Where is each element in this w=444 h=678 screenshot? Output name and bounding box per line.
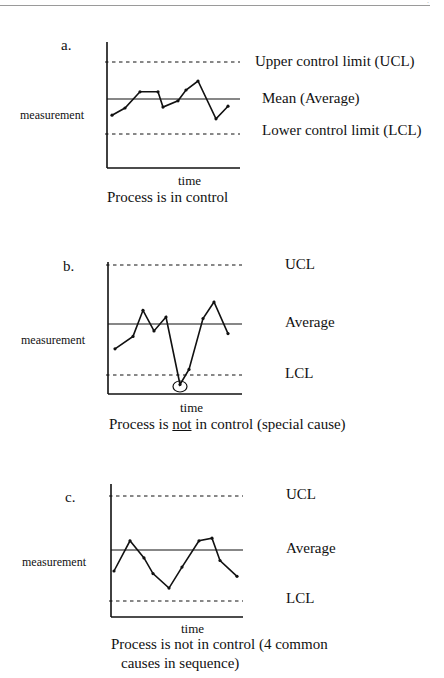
panel-c-ucl-label: UCL (286, 487, 316, 502)
panel-a-data-point (110, 114, 113, 117)
panel-c-lcl-label: LCL (286, 591, 314, 606)
panel-c-data-point (112, 569, 115, 572)
panel-b-caption-pre: Process is (109, 416, 172, 432)
panel-b-caption-post: in control (special cause) (192, 416, 346, 432)
panel-b-data-point (113, 347, 116, 350)
panel-b-caption: Process is not in control (special cause… (109, 417, 346, 432)
panel-c-letter: c. (65, 490, 75, 505)
panel-c-data-point (218, 559, 221, 562)
panel-a-data-point (138, 90, 141, 93)
panel-b-average-label: Average (285, 315, 335, 330)
panel-a-data-point (156, 90, 159, 93)
panel-c-caption-line-2: causes in sequence) (121, 656, 239, 671)
panel-a-data-point (184, 88, 187, 91)
panel-a-data-point (176, 99, 179, 102)
panel-c-data-point (180, 566, 183, 569)
panel-b-data-point (131, 335, 134, 338)
panel-b-data-point (226, 332, 229, 335)
panel-b-data-point (152, 329, 155, 332)
panel-a-data-point (161, 106, 164, 109)
panel-c-data-line (114, 538, 237, 588)
panel-c-data-point (151, 572, 154, 575)
panel-a-ucl-label: Upper control limit (UCL) (255, 54, 415, 69)
panel-b-y-axis-label: measurement (21, 334, 85, 346)
panel-a-caption: Process is in control (107, 190, 228, 205)
panel-b-data-line (115, 302, 228, 385)
panel-c-y-axis-label: measurement (22, 556, 86, 568)
panel-a-lcl-label: Lower control limit (LCL) (262, 123, 422, 138)
panel-a-data-point (196, 79, 199, 82)
panel-a-data-point (226, 105, 229, 108)
panel-b-data-point (164, 316, 167, 319)
panel-b-lcl-label: LCL (285, 366, 313, 381)
panel-b-x-axis-label: time (180, 401, 203, 414)
panel-a-x-axis-label: time (178, 174, 201, 187)
panel-c-data-point (210, 537, 213, 540)
panel-a-y-axis-label: measurement (20, 109, 84, 121)
panel-c-x-axis-label: time (181, 622, 204, 635)
panel-a-letter: a. (61, 38, 71, 53)
panel-b-letter: b. (63, 259, 74, 274)
panel-c-average-label: Average (286, 541, 336, 556)
panel-a-data-point (214, 117, 217, 120)
panel-b-data-point (178, 383, 181, 386)
panel-b-caption-emphasis: not (172, 416, 191, 432)
panel-a-data-line (112, 81, 228, 119)
panel-c-data-point (167, 587, 170, 590)
panel-b-data-point (212, 300, 215, 303)
panel-b-data-point (201, 317, 204, 320)
panel-c-caption-line-1: Process is not in control (4 common (111, 637, 328, 652)
panel-b-data-point (141, 309, 144, 312)
panel-c-data-point (235, 575, 238, 578)
panel-a-mean-label: Mean (Average) (262, 91, 360, 106)
panel-c-data-point (142, 556, 145, 559)
panel-b-data-point (187, 368, 190, 371)
panel-b-ucl-label: UCL (285, 257, 315, 272)
panel-c-data-point (128, 539, 131, 542)
panel-a-data-point (123, 106, 126, 109)
panel-c-data-point (197, 539, 200, 542)
